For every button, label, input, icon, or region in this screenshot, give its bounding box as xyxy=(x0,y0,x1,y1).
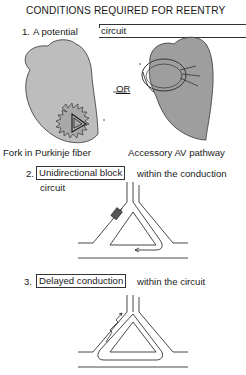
right-heart-illustration xyxy=(139,37,213,140)
right-caption: Accessory AV pathway xyxy=(128,147,225,158)
left-heart-illustration xyxy=(25,40,105,143)
item-2-text: within the conduction xyxy=(137,168,227,179)
delayed-conduction-diagram xyxy=(78,295,188,367)
diagram-graphics xyxy=(0,0,246,375)
or-separator: OR xyxy=(116,83,130,94)
left-caption: Fork in Purkinje fiber xyxy=(3,147,91,158)
item-3-boxed-term: Delayed conduction xyxy=(36,274,126,288)
item-3-text: within the circuit xyxy=(137,276,205,287)
item-2-number: 2. xyxy=(26,168,34,179)
item-2-text-cont: circuit xyxy=(40,182,65,193)
item-2-boxed-term: Unidirectional block xyxy=(36,166,125,180)
item-3-number: 3. xyxy=(24,276,32,287)
unidirectional-block-diagram xyxy=(78,182,188,258)
